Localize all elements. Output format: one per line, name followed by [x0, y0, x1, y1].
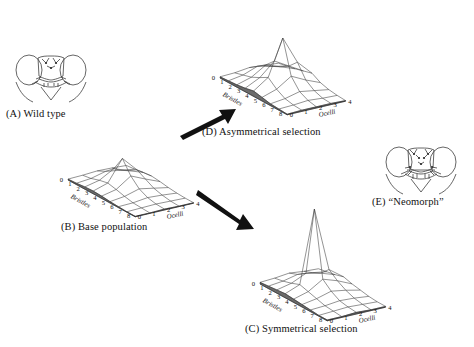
axis-label-bristles: Bristles — [222, 91, 244, 107]
arrow-base-to-symmetrical — [196, 186, 258, 232]
bristles-tick-2: 2 — [229, 83, 232, 90]
bristles-tick-1: 1 — [220, 78, 223, 85]
axis-label-bristles: Bristles — [262, 297, 284, 313]
bristles-neomorph — [401, 149, 441, 175]
ocelli-tick-0: 0 — [138, 213, 142, 220]
axis-label-bristles: Bristles — [70, 193, 92, 209]
ocelli-tick-1: 1 — [152, 210, 155, 217]
surface-c-canvas: 01234567801234BristlesOcelli — [238, 196, 418, 322]
bristles-tick-2: 2 — [77, 185, 80, 192]
panel-b-caption: (B) Base population — [61, 221, 147, 232]
surface-plot-symmetrical-selection: 01234567801234BristlesOcelli — [238, 196, 418, 322]
ocelli-dots-wild — [45, 62, 57, 69]
arrow-base-to-asymmetrical — [178, 106, 238, 140]
surface-d-canvas: 01234567801234BristlesOcelli — [198, 8, 378, 116]
panel-c-caption: (C) Symmetrical selection — [245, 323, 358, 334]
arrow-up-right-icon — [178, 106, 238, 140]
bristles-tick-1: 1 — [260, 284, 263, 291]
fly-head-wild-type — [8, 48, 94, 104]
ocelli-tick-1: 1 — [344, 314, 347, 321]
fly-head-neomorph — [378, 140, 464, 196]
ocelli-tick-4: 4 — [388, 304, 392, 311]
bristles-tick-1: 1 — [68, 180, 71, 187]
fly-head-wild-type-drawing — [8, 48, 94, 104]
bristles-tick-0: 0 — [60, 176, 64, 183]
bristles-tick-0: 0 — [252, 280, 256, 287]
bristles-tick-0: 0 — [212, 74, 216, 81]
ocelli-dots-neomorph — [409, 153, 433, 168]
ocelli-tick-1: 1 — [304, 108, 307, 115]
fly-head-neomorph-drawing — [378, 140, 464, 196]
surface-plot-asymmetrical-selection: 01234567801234BristlesOcelli — [198, 8, 378, 116]
bristles-tick-2: 2 — [269, 289, 272, 296]
ocelli-tick-4: 4 — [348, 98, 352, 105]
ocelli-tick-0: 0 — [290, 111, 294, 118]
bristles-tick-8: 8 — [127, 212, 131, 219]
arrow-down-right-icon — [196, 186, 258, 232]
